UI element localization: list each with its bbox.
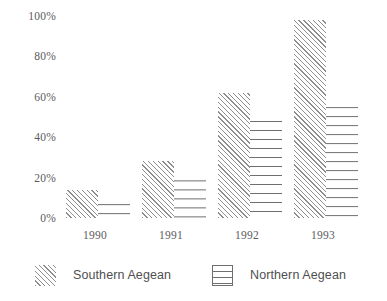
x-tick-label-1990: 1990 — [58, 228, 132, 242]
legend-label-northern-aegean: Northern Aegean — [250, 268, 346, 282]
bar-southern-1990 — [66, 190, 98, 218]
y-tick-label-20: 20% — [4, 172, 56, 184]
bar-northern-1993 — [326, 107, 358, 218]
x-tick-label-1991: 1991 — [134, 228, 208, 242]
legend-label-southern-aegean: Southern Aegean — [73, 268, 171, 282]
y-tick-label-40: 40% — [4, 131, 56, 143]
bar-fill-horizontal-lines — [326, 107, 358, 218]
bar-northern-1990 — [98, 204, 130, 218]
bar-southern-1993 — [294, 20, 326, 218]
bar-fill-diagonal-hatch — [218, 93, 250, 218]
y-axis: 100% 80% 60% 40% 20% 0% — [0, 0, 56, 301]
bar-fill-diagonal-hatch — [142, 161, 174, 218]
x-axis: 1990 1991 1992 1993 — [58, 228, 380, 246]
chart-legend: Southern Aegean Northern Aegean — [0, 262, 387, 294]
y-tick-label-80: 80% — [4, 50, 56, 62]
bar-southern-1992 — [218, 93, 250, 218]
bar-chart: 100% 80% 60% 40% 20% 0% — [0, 0, 387, 301]
x-tick-label-1993: 1993 — [286, 228, 360, 242]
legend-swatch-horizontal-lines-icon — [212, 265, 233, 286]
bar-southern-1991 — [142, 161, 174, 218]
bar-northern-1992 — [250, 121, 282, 218]
y-tick-label-60: 60% — [4, 91, 56, 103]
x-tick-label-1992: 1992 — [210, 228, 284, 242]
bar-group-1993 — [286, 10, 360, 218]
legend-item-southern-aegean: Southern Aegean — [35, 262, 171, 288]
bar-group-1992 — [210, 10, 284, 218]
y-tick-label-100: 100% — [4, 10, 56, 22]
plot-area — [58, 10, 380, 218]
bar-fill-diagonal-hatch — [66, 190, 98, 218]
bar-fill-horizontal-lines — [250, 121, 282, 218]
bar-group-1991 — [134, 10, 208, 218]
legend-swatch-diagonal-hatch-icon — [35, 265, 56, 286]
bar-northern-1991 — [174, 180, 206, 218]
y-tick-label-0: 0% — [4, 212, 56, 224]
bar-fill-horizontal-lines — [98, 204, 130, 218]
bar-fill-horizontal-lines — [174, 180, 206, 218]
bar-fill-diagonal-hatch — [294, 20, 326, 218]
bar-group-1990 — [58, 10, 132, 218]
legend-item-northern-aegean: Northern Aegean — [212, 262, 346, 288]
